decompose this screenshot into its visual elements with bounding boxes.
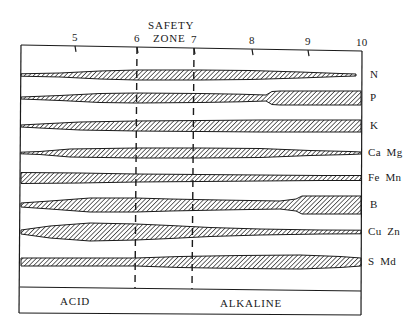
nutrient-band-k xyxy=(21,120,361,132)
safety-zone-label-line2: ZONE xyxy=(153,33,186,44)
nutrient-label: Cu Zn xyxy=(368,226,400,237)
ph-tick-8 xyxy=(252,49,253,55)
nutrient-label: P xyxy=(370,92,376,103)
nutrient-band-s-md xyxy=(21,255,361,269)
nutrient-band-p xyxy=(21,91,361,105)
safety-zone-lines xyxy=(135,47,194,289)
nutrient-label: N xyxy=(370,69,378,80)
alkaline-region-label: ALKALINE xyxy=(220,298,282,309)
nutrient-band-n xyxy=(21,70,356,80)
ph-tick-label: 9 xyxy=(305,36,311,47)
ph-tick-label: 10 xyxy=(356,37,368,48)
nutrient-band-ca-mg xyxy=(21,148,361,158)
ph-tick-5 xyxy=(75,46,76,52)
ph-tick-label: 8 xyxy=(249,35,255,46)
safety-line-ph6 xyxy=(135,47,137,288)
ph-tick-9 xyxy=(308,50,309,56)
ph-tick-label: 6 xyxy=(134,33,140,44)
frame-bottom-edge xyxy=(19,313,361,315)
acid-region-label: ACID xyxy=(60,296,90,307)
frame-divider xyxy=(20,287,361,291)
ph-nutrient-diagram: SAFETY ZONE 5678910 NPKCa MgFe MnBCu ZnS… xyxy=(0,0,416,336)
nutrient-label: S Md xyxy=(368,256,396,267)
safety-zone-label-line1: SAFETY xyxy=(148,20,194,31)
ph-tick-label: 5 xyxy=(72,32,78,43)
nutrient-band-fe-mn xyxy=(21,173,361,184)
nutrient-band-b xyxy=(21,196,361,214)
nutrient-label: K xyxy=(370,120,378,131)
ph-tick-label: 7 xyxy=(191,34,197,45)
nutrient-bands xyxy=(21,70,361,269)
nutrient-label: Fe Mn xyxy=(368,172,401,183)
nutrient-band-cu-zn xyxy=(21,223,361,241)
safety-line-ph7 xyxy=(192,48,194,289)
nutrient-label: Ca Mg xyxy=(368,147,403,158)
nutrient-label: B xyxy=(370,199,378,210)
diagram-canvas xyxy=(0,0,416,336)
